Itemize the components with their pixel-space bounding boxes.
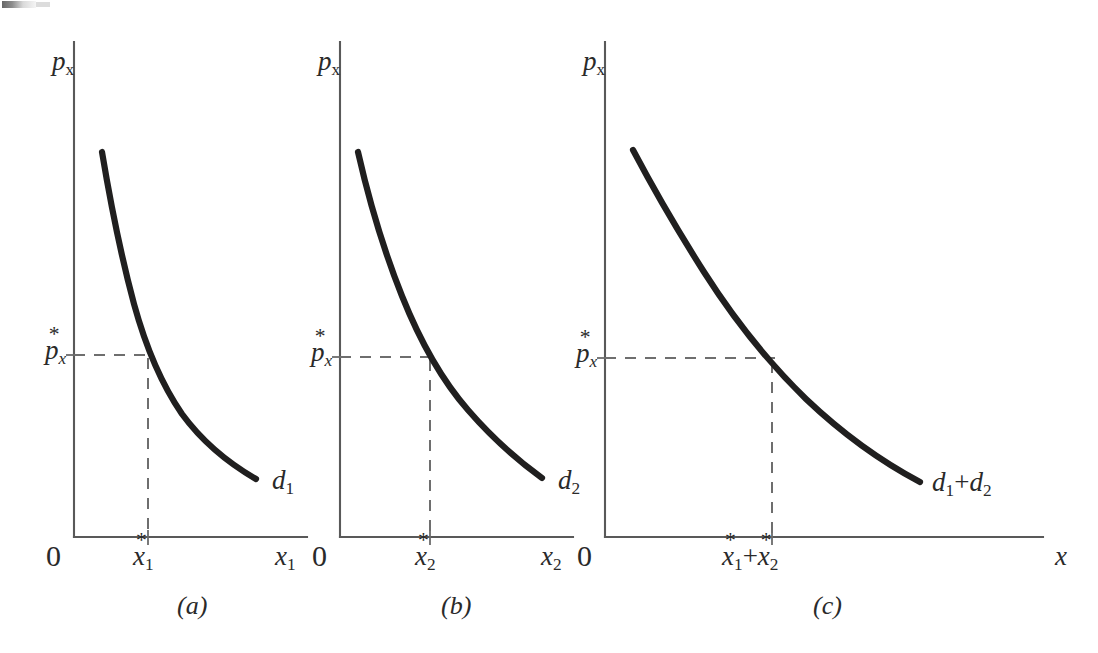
panel-a-demand-curve bbox=[102, 152, 256, 479]
panel-b-curve-label: d2 bbox=[558, 467, 580, 497]
panel-b-graph bbox=[332, 42, 573, 545]
panel-b-caption: (b) bbox=[441, 593, 471, 619]
panel-b-quantity-star-label: x*2 bbox=[415, 543, 436, 573]
panel-a-x-axis-label: x1 bbox=[275, 543, 296, 573]
panel-a-curve-label: d1 bbox=[272, 467, 294, 497]
panel-b-origin-label: 0 bbox=[312, 541, 327, 571]
panel-c-y-axis-label: px bbox=[583, 48, 605, 78]
panel-c-curve-label: d1+d2 bbox=[932, 469, 992, 499]
panel-c-quantity-sum-label: x*1+x*2 bbox=[722, 543, 778, 573]
scan-artifact-top-left-secondary bbox=[36, 2, 50, 7]
figure-root: px p*x 0 x*1 x1 d1 (a) px p*x 0 x*2 x2 d… bbox=[0, 0, 1098, 653]
panel-a-quantity-star-label: x*1 bbox=[133, 543, 154, 573]
panel-b-y-axis-label: px bbox=[318, 48, 340, 78]
panel-b-price-star-label: p*x bbox=[311, 339, 332, 369]
panel-b-x-axis-label: x2 bbox=[541, 543, 562, 573]
panel-c-price-star-label: p*x bbox=[576, 340, 597, 370]
panel-c-x-axis-label: x bbox=[1055, 543, 1067, 570]
panel-b-demand-curve bbox=[358, 152, 542, 478]
panel-a-caption: (a) bbox=[177, 593, 207, 619]
panel-c-caption: (c) bbox=[813, 593, 842, 619]
panel-a-graph bbox=[66, 42, 307, 545]
scan-artifact-top-left bbox=[2, 1, 36, 8]
panel-a-origin-label: 0 bbox=[46, 541, 61, 571]
panel-c-demand-curve bbox=[633, 150, 920, 482]
panel-a-price-star-label: p*x bbox=[45, 337, 66, 367]
panel-a-y-axis-label: px bbox=[52, 48, 74, 78]
panel-c-origin-label: 0 bbox=[577, 541, 592, 571]
